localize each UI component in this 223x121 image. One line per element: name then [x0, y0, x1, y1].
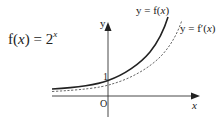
curve-fprime-label: y = f′(x)	[180, 23, 216, 34]
x-axis-label: x	[192, 100, 197, 111]
graph-canvas	[0, 0, 223, 121]
y-axis-label: y	[100, 18, 106, 29]
curve-f-label-prefix: y = f(	[136, 4, 161, 16]
function-definition: f(x) = 2x	[8, 30, 57, 47]
func-exponent: x	[53, 29, 57, 39]
curve-fprime-label-prefix: y = f′(	[180, 22, 207, 34]
func-mid: ) = 2	[25, 31, 53, 47]
curve-f-label: y = f(x)	[136, 5, 169, 16]
curve-fprime-label-suffix: )	[212, 22, 216, 34]
curve-f-label-suffix: )	[165, 4, 169, 16]
exponential-graph-figure: f(x) = 2x y = f(x) y = f′(x) y x O 1	[0, 0, 223, 121]
func-prefix: f(	[8, 31, 18, 47]
func-var: x	[18, 31, 25, 47]
origin-label: O	[100, 99, 107, 109]
y-intercept-label: 1	[103, 72, 108, 82]
